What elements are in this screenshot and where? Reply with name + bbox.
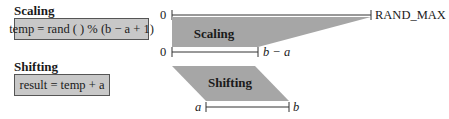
bottom-axis: a b — [195, 100, 299, 114]
bottom-axis-start-label: a — [195, 100, 201, 114]
top-axis-end-label: RAND_MAX — [375, 8, 446, 22]
range-diagram: 0 RAND_MAX Scaling 0 b − a Shifting a b — [0, 0, 449, 119]
middle-axis-start-label: 0 — [160, 45, 166, 59]
bottom-axis-end-label: b — [293, 100, 299, 114]
shifting-shape: Shifting — [172, 66, 289, 101]
middle-axis: 0 b − a — [160, 45, 290, 59]
top-axis-start-label: 0 — [160, 8, 166, 22]
middle-axis-end-label: b − a — [263, 45, 290, 59]
scaling-shape: Scaling — [172, 17, 371, 47]
scaling-shape-label: Scaling — [194, 26, 235, 41]
shifting-shape-label: Shifting — [208, 75, 253, 90]
